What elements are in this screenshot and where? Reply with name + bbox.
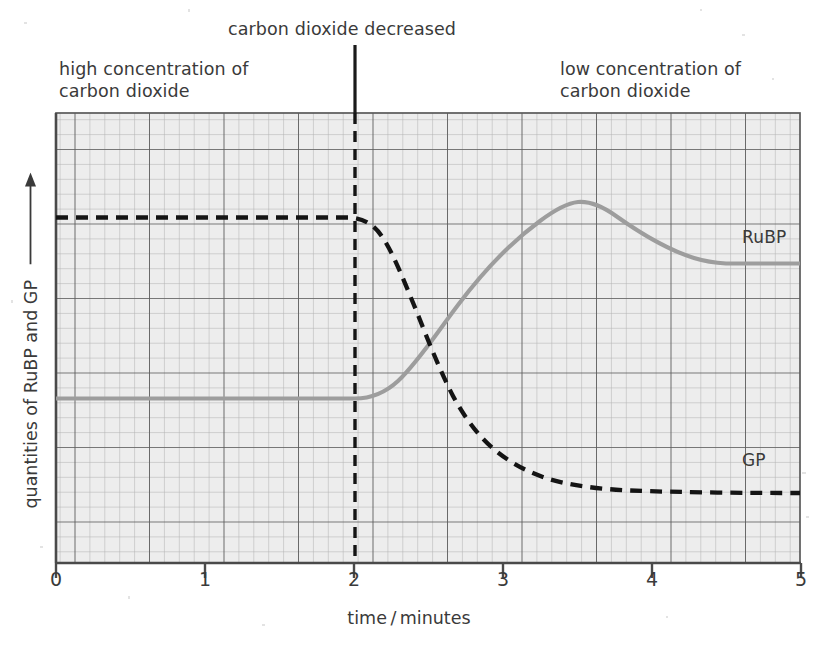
y-axis-arrow-icon (22, 172, 42, 264)
x-tick-label-2: 2 (334, 568, 374, 590)
annotation-low-concentration: low concentration of carbon dioxide (560, 58, 741, 102)
x-tick-label-5: 5 (781, 568, 818, 590)
x-axis-label: time / minutes (0, 608, 818, 628)
x-tick-label-1: 1 (185, 568, 225, 590)
series-label-rubp: RuBP (742, 227, 787, 247)
series-label-gp: GP (742, 450, 766, 470)
x-tick-label-0: 0 (36, 568, 76, 590)
y-axis-label-group: quantities of RuBP and GP (21, 161, 42, 521)
x-tick-label-3: 3 (483, 568, 523, 590)
annotation-carbon-dioxide-decreased: carbon dioxide decreased (228, 18, 456, 40)
annotation-high-concentration: high concentration of carbon dioxide (59, 58, 248, 102)
graph-figure: carbon dioxide decreased high concentrat… (0, 0, 818, 648)
x-tick-label-4: 4 (632, 568, 672, 590)
y-axis-label-text: quantities of RuBP and GP (21, 280, 41, 509)
x-axis-ticks (56, 563, 801, 578)
